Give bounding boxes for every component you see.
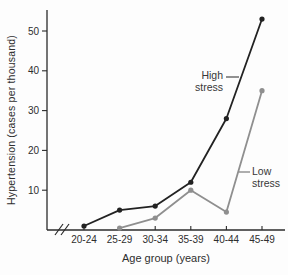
- high-stress-data-point: [259, 16, 264, 21]
- annotation-high-stress: High stress: [195, 69, 223, 93]
- plot-area: 102030405020-2425-2930-3435-3940-4445-49: [0, 0, 288, 275]
- x-tick-label: 35-39: [178, 234, 204, 245]
- high-stress-line: [84, 19, 262, 226]
- hypertension-vs-age-line-chart: Hypertension (cases per thousand) 102030…: [0, 0, 288, 275]
- low-stress-data-point: [117, 225, 122, 230]
- y-tick-label: 30: [28, 105, 40, 116]
- y-tick-label: 40: [28, 65, 40, 76]
- annotation-high-stress-line1: High: [195, 69, 223, 81]
- x-tick-label: 20-24: [71, 234, 97, 245]
- x-tick-label: 30-34: [142, 234, 168, 245]
- y-tick-label: 20: [28, 145, 40, 156]
- x-tick-label: 45-49: [249, 234, 275, 245]
- high-stress-data-point: [117, 208, 122, 213]
- high-stress-data-point: [81, 223, 86, 228]
- low-stress-data-point: [188, 188, 193, 193]
- high-stress-data-point: [188, 180, 193, 185]
- y-tick-label: 50: [28, 26, 40, 37]
- annotation-low-stress-line2: stress: [252, 177, 280, 189]
- low-stress-data-point: [224, 209, 229, 214]
- annotation-high-stress-line2: stress: [195, 81, 223, 93]
- annotation-low-stress-line1: Low: [252, 165, 280, 177]
- y-tick-label: 10: [28, 185, 40, 196]
- x-axis-title: Age group (years): [122, 252, 210, 264]
- x-tick-label: 25-29: [107, 234, 133, 245]
- high-stress-data-point: [224, 116, 229, 121]
- annotation-low-stress: Low stress: [252, 165, 280, 189]
- low-stress-data-point: [259, 88, 264, 93]
- high-stress-data-point: [153, 204, 158, 209]
- x-tick-label: 40-44: [214, 234, 240, 245]
- low-stress-data-point: [153, 215, 158, 220]
